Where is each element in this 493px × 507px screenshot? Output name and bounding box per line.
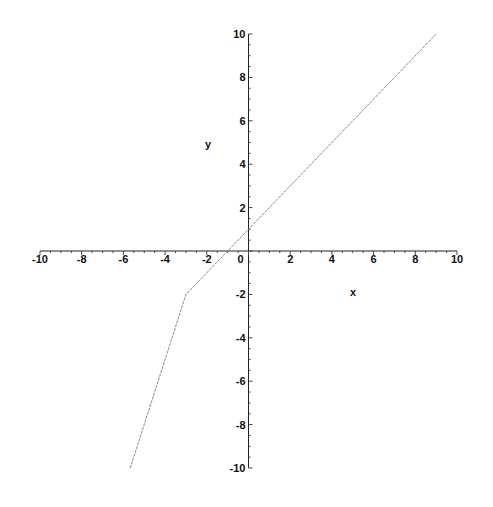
- chart-plot: -10-8-6-4-20246810-10-8-6-4-2246810 x y: [0, 0, 493, 507]
- x-tick-label: 6: [371, 253, 377, 265]
- y-tick-label: 2: [239, 202, 245, 214]
- y-tick-label: 6: [239, 115, 245, 127]
- x-tick-label: 2: [287, 253, 293, 265]
- x-tick-label: -8: [77, 253, 87, 265]
- x-tick-label: 0: [237, 253, 243, 265]
- tick-marks: [40, 34, 457, 468]
- x-tick-label: -4: [160, 253, 171, 265]
- x-tick-label: -2: [202, 253, 212, 265]
- y-tick-label: 8: [239, 71, 245, 83]
- x-axis-label: x: [350, 286, 357, 298]
- y-tick-label: -10: [230, 462, 246, 474]
- y-tick-label: -8: [236, 419, 246, 431]
- y-tick-label: -2: [236, 288, 246, 300]
- x-tick-label: 8: [412, 253, 418, 265]
- x-tick-label: -10: [32, 253, 48, 265]
- y-tick-label: -4: [236, 332, 247, 344]
- y-tick-label: 4: [239, 158, 246, 170]
- x-tick-label: 4: [329, 253, 336, 265]
- y-tick-label: -6: [236, 375, 246, 387]
- x-tick-label: 10: [451, 253, 463, 265]
- x-tick-label: -6: [119, 253, 129, 265]
- y-axis-label: y: [205, 138, 212, 150]
- y-tick-label: 10: [233, 28, 245, 40]
